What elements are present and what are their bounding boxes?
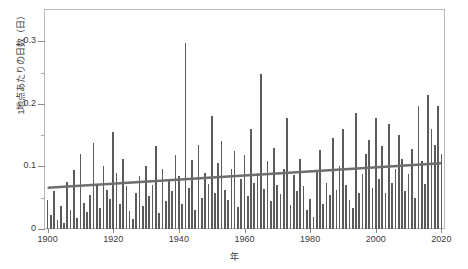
y-axis-title: 1地点あたりの日数（日） (14, 0, 27, 128)
y-tick-label: 0 (0, 224, 36, 233)
x-tick-label: 1920 (93, 235, 133, 244)
x-tick (179, 229, 180, 233)
x-tick (245, 229, 246, 233)
x-tick (48, 229, 49, 233)
plot-area (45, 10, 444, 229)
x-tick-label: 2020 (421, 235, 461, 244)
x-tick (310, 229, 311, 233)
y-tick (38, 104, 45, 105)
y-tick-minor (41, 198, 45, 199)
y-tick-label: 0.2 (0, 99, 36, 108)
y-tick (38, 41, 45, 42)
x-tick-label: 1900 (28, 235, 68, 244)
trend-line (45, 10, 444, 229)
x-tick-label: 2000 (356, 235, 396, 244)
y-tick-label: 0.1 (0, 161, 36, 170)
x-axis-title: 年 (0, 250, 468, 263)
x-tick-label: 1960 (225, 235, 265, 244)
y-tick (38, 229, 45, 230)
x-tick-label: 1940 (159, 235, 199, 244)
trend-line-segment (48, 163, 442, 187)
x-tick-label: 1980 (290, 235, 330, 244)
x-tick (113, 229, 114, 233)
x-tick (376, 229, 377, 233)
x-tick (441, 229, 442, 233)
climate-bar-chart: 1地点あたりの日数（日） 年 00.10.20.3190019201940196… (0, 0, 468, 269)
y-tick-label: 0.3 (0, 36, 36, 45)
y-tick (38, 166, 45, 167)
y-tick-minor (41, 73, 45, 74)
y-tick-minor (41, 135, 45, 136)
